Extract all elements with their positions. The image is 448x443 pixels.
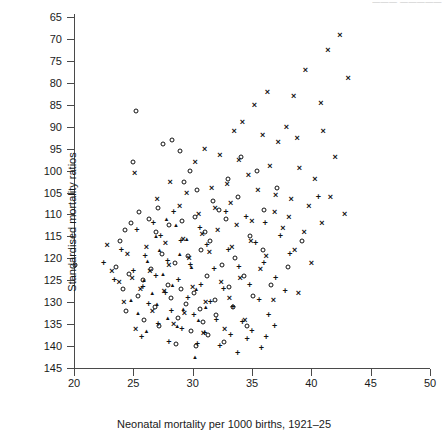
data-point-triangle (153, 300, 161, 308)
data-point-triangle (172, 221, 180, 229)
data-point-plus (110, 276, 118, 284)
y-tick-mark (67, 105, 74, 106)
data-point-cross (123, 250, 131, 258)
x-tick-label: 50 (424, 378, 436, 389)
data-point-plus (222, 208, 230, 216)
data-point-cross (300, 228, 308, 236)
y-tick-mark (67, 324, 74, 325)
y-tick-mark (67, 302, 74, 303)
data-point-circle (285, 265, 290, 270)
data-point-circle (153, 229, 158, 234)
data-point-plus (190, 311, 198, 319)
data-point-cross (115, 278, 123, 286)
data-point-circle (166, 223, 171, 228)
data-point-circle (254, 168, 259, 173)
y-tick-mark (67, 17, 74, 18)
y-tick-mark (67, 127, 74, 128)
data-point-cross (136, 285, 144, 293)
data-point-cross (228, 243, 236, 251)
data-point-circle (233, 256, 238, 261)
data-point-cross (290, 92, 298, 100)
data-point-triangle (127, 296, 135, 304)
data-point-plus (227, 331, 235, 339)
data-point-cross (146, 267, 154, 275)
data-point-cross (198, 230, 206, 238)
data-point-plus (152, 272, 160, 280)
data-point-plus (178, 325, 186, 333)
data-point-plus (216, 342, 224, 350)
data-point-plus (286, 250, 294, 258)
data-point-triangle (187, 263, 195, 271)
data-point-circle (174, 341, 179, 346)
data-point-cross (279, 224, 287, 232)
data-point-cross (176, 202, 184, 210)
data-point-circle (247, 234, 252, 239)
cropped-header-text: ——— ————— (372, 0, 442, 6)
data-point-triangle (152, 232, 160, 240)
y-tick-label: 110 (0, 209, 66, 220)
data-point-circle (137, 210, 142, 215)
data-point-plus (252, 239, 260, 247)
data-point-triangle (144, 257, 152, 265)
data-point-plus (117, 246, 125, 254)
x-tick-label: 30 (187, 378, 199, 389)
y-tick-label: 75 (0, 55, 66, 66)
x-tick-mark (430, 369, 431, 376)
data-point-circle (261, 208, 266, 213)
data-point-cross (165, 261, 173, 269)
data-point-triangle (163, 215, 171, 223)
data-point-cross (324, 46, 332, 54)
data-point-plus (197, 281, 205, 289)
data-point-cross (256, 265, 264, 273)
data-point-triangle (140, 276, 148, 284)
data-point-triangle (191, 353, 199, 361)
data-point-circle (239, 155, 244, 160)
data-point-cross (247, 237, 255, 245)
data-point-cross (108, 267, 116, 275)
data-point-plus (255, 296, 263, 304)
data-point-circle (274, 186, 279, 191)
data-point-cross (153, 195, 161, 203)
y-tick-mark (67, 61, 74, 62)
data-point-cross (331, 153, 339, 161)
data-point-circle (227, 284, 232, 289)
data-point-cross (241, 316, 249, 324)
data-point-plus (235, 263, 243, 271)
data-point-cross (293, 134, 301, 142)
data-point-cross (269, 296, 277, 304)
data-point-cross (287, 195, 295, 203)
data-point-plus (161, 289, 169, 297)
data-point-cross (307, 259, 315, 267)
data-point-plus (186, 261, 194, 269)
x-tick-label: 25 (127, 378, 139, 389)
y-tick-mark (67, 368, 74, 369)
data-point-cross (205, 248, 213, 256)
data-point-circle (223, 216, 228, 221)
data-point-cross (230, 127, 238, 135)
data-point-circle (216, 208, 221, 213)
data-point-circle (176, 315, 181, 320)
y-tick-label: 100 (0, 165, 66, 176)
data-point-plus (165, 338, 173, 346)
x-tick-mark (371, 369, 372, 376)
data-point-circle (178, 287, 183, 292)
data-point-circle (156, 205, 161, 210)
data-point-circle (191, 291, 196, 296)
data-point-cross (301, 66, 309, 74)
y-tick-label: 125 (0, 275, 66, 286)
data-point-plus (167, 307, 175, 315)
data-point-circle (299, 238, 304, 243)
data-point-circle (231, 304, 236, 309)
data-point-circle (235, 194, 240, 199)
y-tick-mark (67, 149, 74, 150)
data-point-triangle (173, 322, 181, 330)
data-point-cross (183, 189, 191, 197)
data-point-circle (182, 179, 187, 184)
y-tick-label: 120 (0, 253, 66, 264)
x-tick-mark (133, 369, 134, 376)
data-point-circle (149, 267, 154, 272)
data-point-plus (177, 237, 185, 245)
data-point-triangle (168, 281, 176, 289)
y-tick-label: 140 (0, 341, 66, 352)
data-point-circle (128, 221, 133, 226)
